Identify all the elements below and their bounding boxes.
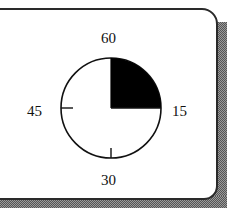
timer-dial[interactable] [0, 0, 227, 208]
elapsed-wedge [111, 58, 161, 108]
